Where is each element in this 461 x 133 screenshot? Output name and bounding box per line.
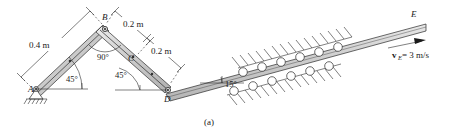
roller-bottom-3 [268, 77, 277, 86]
bar-de-centerline [168, 27, 426, 97]
figure-container: 0.4 m 0.2 m 0.2 m B C A D E 90° 45° 45° … [0, 0, 461, 133]
dim-label-bc: 0.2 m [123, 19, 144, 29]
velocity-symbol: v [392, 50, 397, 60]
mechanics-diagram: 0.4 m 0.2 m 0.2 m B C A D E 90° 45° 45° … [0, 0, 461, 133]
link-ab-midpoint-dot [69, 60, 72, 63]
roller-top-5 [315, 48, 324, 57]
roller-top-2 [258, 63, 267, 72]
point-label-a: A [27, 84, 34, 94]
dim-label-ab: 0.4 m [29, 40, 50, 50]
roller-bottom-6 [325, 62, 334, 71]
figure-caption: (a) [204, 117, 214, 127]
point-label-e: E [410, 9, 417, 19]
joint-b [102, 26, 107, 31]
angle-label-c: 45° [115, 70, 127, 80]
point-label-c: C [128, 53, 135, 63]
point-label-b: B [102, 12, 108, 22]
dim-cd-ext-d [170, 68, 181, 84]
support-a-hatch [24, 99, 47, 104]
bar-de [166, 24, 426, 101]
dim-label-cd: 0.2 m [151, 46, 172, 56]
roller-top-1 [239, 68, 248, 77]
angle-label-a: 45° [66, 74, 78, 84]
roller-bottom-5 [306, 67, 315, 76]
velocity-label: v E = 3 m/s [392, 50, 430, 61]
angle-label-b: 90° [97, 52, 109, 62]
link-bd-dot-2 [151, 73, 153, 75]
roller-bottom-2 [249, 82, 258, 91]
pin-b-inner [104, 28, 106, 30]
roller-top-3 [277, 58, 286, 67]
roller-top-4 [296, 53, 305, 62]
velocity-value: = 3 m/s [402, 50, 430, 60]
roller-bottom-4 [287, 72, 296, 81]
angle-label-d: 15° [225, 79, 237, 89]
roller-top-6 [334, 43, 343, 52]
velocity-arrow-head [414, 38, 426, 44]
point-label-d: D [163, 94, 171, 104]
